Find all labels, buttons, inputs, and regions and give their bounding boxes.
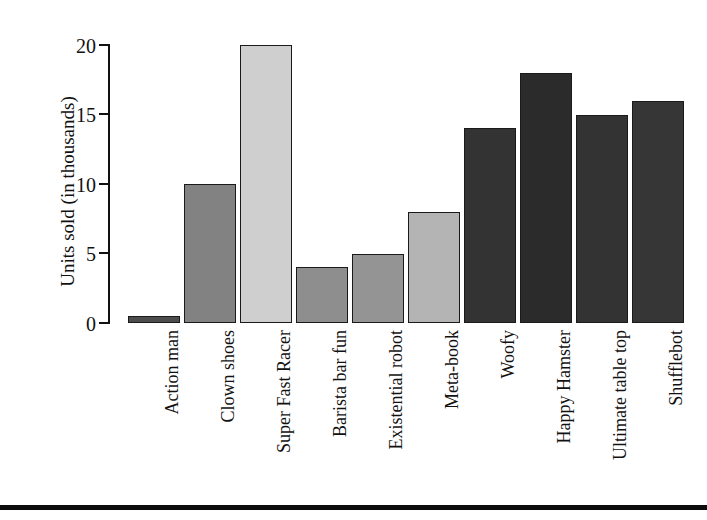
x-tick-label-woofy: Woofy: [499, 330, 517, 379]
x-tick-label-slot: Barista bar fun: [296, 330, 348, 495]
y-tick-mark-15: [99, 113, 109, 115]
y-tick-label-15: 15: [48, 105, 96, 125]
x-tick-label-existential-robot: Existential robot: [387, 330, 405, 449]
y-tick-label-20: 20: [48, 36, 96, 56]
x-tick-label-slot: Action man: [128, 330, 180, 495]
x-tick-label-slot: Existential robot: [352, 330, 404, 495]
x-axis-tick-labels: Action manClown shoesSuper Fast RacerBar…: [110, 330, 690, 495]
x-tick-label-action-man: Action man: [163, 330, 181, 414]
plot-area: [110, 45, 690, 323]
x-tick-label-slot: Meta-book: [408, 330, 460, 495]
x-tick-label-happy-hamster: Happy Hamster: [555, 330, 573, 443]
x-tick-label-super-fast-racer: Super Fast Racer: [275, 330, 293, 453]
y-tick-mark-0: [99, 322, 109, 324]
bar-meta-book: [408, 212, 460, 323]
x-tick-label-slot: Woofy: [464, 330, 516, 495]
bar-super-fast-racer: [240, 45, 292, 323]
y-axis-tick-labels: 20 15 10 5 0: [48, 0, 96, 520]
x-tick-label-slot: Super Fast Racer: [240, 330, 292, 495]
bar-barista-bar-fun: [296, 267, 348, 323]
y-tick-mark-10: [99, 183, 109, 185]
x-tick-label-slot: Clown shoes: [184, 330, 236, 495]
x-tick-label-clown-shoes: Clown shoes: [219, 330, 237, 423]
x-tick-label-barista-bar-fun: Barista bar fun: [331, 330, 349, 437]
footer-rule: [0, 505, 707, 510]
y-tick-mark-5: [99, 252, 109, 254]
bar-action-man: [128, 316, 180, 323]
y-tick-label-0: 0: [48, 314, 96, 334]
bar-woofy: [464, 128, 516, 323]
x-tick-label-meta-book: Meta-book: [443, 330, 461, 409]
x-tick-label-slot: Ultimate table top: [576, 330, 628, 495]
bar-ultimate-table-top: [576, 115, 628, 324]
x-tick-label-shufflebot: Shufflebot: [667, 330, 685, 406]
bar-shufflebot: [632, 101, 684, 323]
y-tick-label-5: 5: [48, 244, 96, 264]
x-tick-label-ultimate-table-top: Ultimate table top: [611, 330, 629, 460]
y-tick-mark-20: [99, 44, 109, 46]
y-tick-label-10: 10: [48, 175, 96, 195]
bar-clown-shoes: [184, 184, 236, 323]
x-tick-label-slot: Shufflebot: [632, 330, 684, 495]
bar-happy-hamster: [520, 73, 572, 323]
bar-chart-figure: Units sold (in thousands) 20 15 10 5 0 A…: [0, 0, 707, 520]
x-tick-label-slot: Happy Hamster: [520, 330, 572, 495]
bar-existential-robot: [352, 254, 404, 324]
